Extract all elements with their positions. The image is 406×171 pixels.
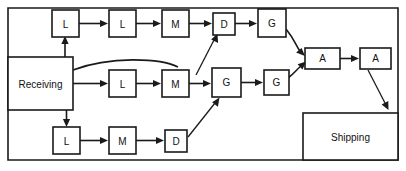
node-m-bottom-label: M <box>118 136 126 147</box>
arrowhead-m2-to-g2 <box>203 80 211 87</box>
node-g-middle-2-label: G <box>273 77 281 88</box>
node-d-top-label: D <box>220 19 227 30</box>
arrowhead-l2-to-m1 <box>153 20 161 27</box>
arrowhead-l4-to-m3 <box>100 137 108 144</box>
arrowhead-receiving-to-l-bottom <box>63 119 70 127</box>
edge-a2-to-shipping <box>368 70 385 103</box>
arrowhead-m3-to-d2 <box>156 137 164 144</box>
edge-receiving-to-m-mid <box>73 60 178 70</box>
arrowhead-l1-to-l2 <box>100 20 108 27</box>
arrowhead-a1-to-a2 <box>351 55 359 62</box>
arrowhead-d1-to-g1 <box>249 20 257 27</box>
node-a-1-label: A <box>319 53 326 64</box>
arrowhead-g1-to-a1 <box>296 48 305 56</box>
diagram-canvas: Receiving Shipping L L M D G L M G G <box>0 0 406 171</box>
edge-g3-to-a1 <box>288 66 301 78</box>
node-g-middle-1-label: G <box>223 77 231 88</box>
edge-g1-to-a1 <box>286 29 300 51</box>
arrowhead-m1-to-d1 <box>204 20 212 27</box>
process-flow-svg: Receiving Shipping L L M D G L M G G <box>0 0 406 171</box>
arrowhead-g2-to-g3 <box>255 79 263 86</box>
node-l-top-1-label: L <box>63 19 69 30</box>
node-l-top-2-label: L <box>120 19 126 30</box>
edge-d2-to-g2 <box>188 103 215 137</box>
arrowhead-l3-to-m2 <box>153 80 161 87</box>
node-m-top-label: M <box>171 19 179 30</box>
node-g-top-label: G <box>268 18 276 29</box>
area-receiving-label: Receiving <box>19 79 63 90</box>
node-a-2-label: A <box>372 53 379 64</box>
area-shipping-label: Shipping <box>331 132 370 143</box>
node-l-bottom-label: L <box>64 136 70 147</box>
node-l-middle-label: L <box>120 79 126 90</box>
node-m-middle-label: M <box>171 79 179 90</box>
node-d-bottom-label: D <box>172 136 179 147</box>
arrowhead-receiving-to-l-mid <box>100 80 108 87</box>
